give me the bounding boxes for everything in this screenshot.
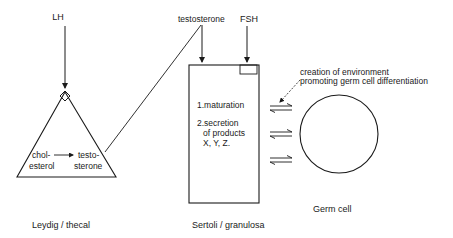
cholesterol-label-line2: esterol [29,161,55,171]
environment-dashed-arrow [280,80,300,102]
testosterone-label-line1: testo- [78,150,99,160]
sertoli-caption: Sertoli / granulosa [192,220,265,230]
fsh-label: FSH [240,14,258,24]
sertoli-cell: testosterone FSH 1.maturation 2.secretio… [178,14,265,230]
environment-annotation-line2: promoting germ cell differentiation [300,76,428,86]
testosterone-transport-line [105,25,201,152]
leydig-cell: LH chol- esterol testo- sterone Leydig /… [17,12,116,230]
diagram-canvas: LH chol- esterol testo- sterone Leydig /… [0,0,453,238]
cholesterol-label-line1: chol- [32,150,51,160]
exchange-arrow-3 [270,156,292,165]
leydig-caption: Leydig / thecal [32,220,90,230]
germ-cell-circle [300,95,378,173]
fsh-receptor-icon [240,65,257,74]
function-secretion-line3: X, Y, Z. [203,138,230,148]
exchange-arrow-2 [270,130,292,139]
function-maturation: 1.maturation [197,100,245,110]
testosterone-label-line2: sterone [74,161,103,171]
function-secretion-line1: 2.secretion [197,118,239,128]
germ-cell: creation of environment promoting germ c… [280,67,428,214]
exchange-arrow-1 [270,104,292,113]
lh-label: LH [52,12,64,22]
testosterone-input-label: testosterone [178,14,225,24]
function-secretion-line2: of products [203,128,245,138]
germ-cell-caption: Germ cell [313,204,352,214]
exchange-arrows [270,104,292,165]
